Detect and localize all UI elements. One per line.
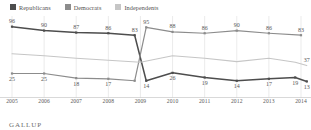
legend-square-icon	[10, 4, 16, 10]
legend-square-icon	[115, 4, 121, 10]
data-point-marker[interactable]	[11, 26, 13, 28]
point-label: 17	[266, 81, 272, 87]
gallup-logo: GALLUP	[9, 121, 42, 129]
plot-area: 9690878683142619141719132525181795888690…	[0, 14, 311, 98]
data-point-marker[interactable]	[11, 72, 13, 74]
data-point-marker[interactable]	[107, 32, 109, 34]
data-point-marker[interactable]	[306, 80, 308, 82]
data-point-marker[interactable]	[171, 31, 173, 33]
data-point-marker[interactable]	[268, 32, 270, 34]
x-tick-label-2005: 2005	[6, 98, 18, 105]
data-point-marker[interactable]	[204, 76, 206, 78]
point-label: 86	[266, 25, 272, 31]
x-tick-label-2008: 2008	[103, 98, 115, 105]
x-tick-label-2006: 2006	[38, 98, 50, 105]
x-axis: 2005200620072008200920102011201220132014	[0, 98, 311, 110]
point-label: 86	[105, 25, 111, 31]
legend-entry-independents[interactable]: Independents	[115, 4, 158, 11]
legend-square-icon	[65, 4, 71, 10]
data-point-marker[interactable]	[145, 80, 147, 82]
chart-footer: GALLUP	[9, 113, 129, 125]
data-point-marker[interactable]	[75, 31, 77, 33]
point-label: 25	[9, 76, 15, 82]
legend-label: Republicans	[19, 4, 51, 11]
legend-label: Democrats	[74, 4, 102, 11]
gallup-approval-chart: RepublicansDemocratsIndependents 9690878…	[0, 0, 311, 130]
point-label: 88	[170, 23, 176, 29]
point-label: 96	[9, 18, 15, 24]
chart-legend: RepublicansDemocratsIndependents	[10, 1, 159, 13]
point-label: 90	[234, 22, 240, 28]
point-label: 14	[234, 83, 240, 89]
series-line-republicans[interactable]	[12, 27, 307, 82]
point-label: 25	[41, 76, 47, 82]
point-label: 95	[143, 19, 149, 25]
data-point-marker[interactable]	[236, 80, 238, 82]
x-tick-label-2011: 2011	[199, 98, 210, 105]
data-point-marker[interactable]	[134, 80, 136, 82]
point-label: 83	[132, 27, 138, 33]
point-label: 86	[202, 25, 208, 31]
x-tick-label-2014: 2014	[295, 98, 307, 105]
point-label: 90	[41, 22, 47, 28]
point-label: 13	[304, 84, 310, 90]
data-point-marker[interactable]	[134, 34, 136, 36]
point-label: 17	[105, 81, 111, 87]
point-label: 18	[73, 81, 79, 87]
data-point-marker[interactable]	[107, 78, 109, 80]
point-label: 26	[170, 75, 176, 81]
data-point-marker[interactable]	[268, 78, 270, 80]
point-label: 19	[292, 80, 298, 86]
x-tick-label-2013: 2013	[263, 98, 275, 105]
x-tick-label-2012: 2012	[231, 98, 243, 105]
point-label: 19	[202, 80, 208, 86]
legend-label: Independents	[124, 4, 158, 11]
x-tick-label-2007: 2007	[70, 98, 82, 105]
data-point-marker[interactable]	[145, 26, 147, 28]
data-point-marker[interactable]	[43, 30, 45, 32]
x-tick-label-2010: 2010	[167, 98, 179, 105]
data-point-marker[interactable]	[75, 77, 77, 79]
series-line-independents[interactable]	[12, 54, 307, 66]
x-tick-label-2009: 2009	[135, 98, 147, 105]
data-point-marker[interactable]	[204, 32, 206, 34]
point-label: 14	[143, 83, 149, 89]
series-lines	[11, 26, 308, 83]
point-label: 37	[304, 57, 310, 63]
legend-entry-republicans[interactable]: Republicans	[10, 4, 51, 11]
data-point-marker[interactable]	[294, 76, 296, 78]
gridlines	[0, 16, 311, 98]
data-point-marker[interactable]	[236, 30, 238, 32]
point-label: 87	[73, 24, 79, 30]
point-label: 83	[298, 27, 304, 33]
legend-entry-democrats[interactable]: Democrats	[65, 4, 102, 11]
series-line-democrats[interactable]	[12, 27, 301, 80]
data-point-marker[interactable]	[300, 34, 302, 36]
data-point-marker[interactable]	[171, 72, 173, 74]
plot-svg: 9690878683142619141719132525181795888690…	[0, 14, 311, 98]
data-point-marker[interactable]	[43, 72, 45, 74]
